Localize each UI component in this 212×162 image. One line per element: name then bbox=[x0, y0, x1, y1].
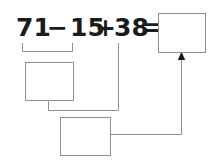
equals-sign: = bbox=[140, 13, 161, 42]
operator-plus: + bbox=[95, 13, 116, 42]
answer-box[interactable] bbox=[159, 14, 206, 53]
work-box-second-step[interactable] bbox=[61, 118, 111, 156]
work-box-first-step[interactable] bbox=[26, 63, 74, 101]
worksheet-diagram: 71 − 15 + 38 = bbox=[0, 0, 212, 162]
connector-second-step-to-answer bbox=[111, 58, 182, 135]
operator-minus: − bbox=[47, 13, 68, 42]
grouping-bracket-first-step bbox=[23, 43, 73, 52]
operand-1: 71 bbox=[16, 13, 51, 42]
math-worksheet-canvas: 71 − 15 + 38 = bbox=[0, 0, 212, 162]
connector-first-step-to-second-step bbox=[49, 101, 119, 111]
